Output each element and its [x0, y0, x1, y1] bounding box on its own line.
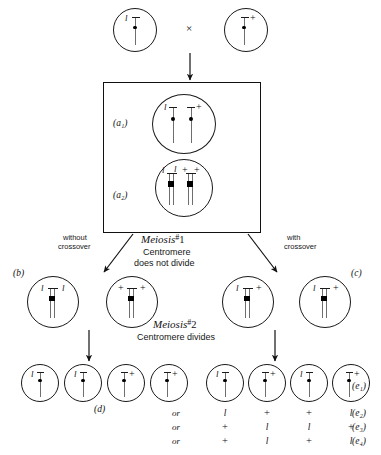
stage-label-a2: (a₂): [113, 190, 127, 200]
or-label-e4: or: [172, 436, 180, 446]
branch-label-with-crossover-line2: crossover: [284, 243, 317, 252]
gamete-e1-1: l: [206, 364, 244, 402]
stage-label-e1-text: (e₁): [352, 381, 366, 391]
gamete-d-3: +: [107, 364, 145, 402]
allele-label: +: [172, 369, 178, 378]
meiosis2-caption: Centromere divides: [137, 332, 215, 343]
meiosis1-caption-line1: Centromere: [143, 247, 191, 258]
or-label-e2: or: [172, 408, 180, 418]
allele-e4-1: +: [218, 435, 232, 446]
allele-label: +: [140, 283, 146, 292]
allele-e2-3: +: [302, 407, 316, 418]
allele-label: +: [182, 165, 188, 174]
allele-e3-3: l: [302, 422, 316, 432]
cross-symbol: ×: [186, 22, 192, 34]
allele-label: +: [250, 13, 256, 22]
allele-e3-2: l: [260, 422, 274, 432]
meiosis2-title-word: Meiosis: [153, 318, 187, 330]
parent-cell-plus: +: [224, 8, 268, 52]
meiosis1-num: 1: [179, 234, 184, 245]
stage-label-e4: (e₄): [352, 436, 366, 446]
stage-label-b: (b): [13, 268, 24, 278]
allele-label: l: [62, 284, 65, 293]
allele-label: l: [41, 284, 44, 293]
gamete-d-2: l: [64, 364, 102, 402]
allele-label: +: [118, 283, 124, 292]
meiosis1-caption-line2: does not divide: [134, 258, 195, 269]
allele-e4-3: +: [302, 435, 316, 446]
allele-e2-2: +: [260, 407, 274, 418]
cell-b2: + +: [106, 276, 158, 328]
arrow-without-crossover: [104, 234, 133, 272]
allele-label: l: [125, 14, 128, 23]
stage-label-d: (d): [94, 404, 105, 414]
allele-e2-1: l: [218, 408, 232, 418]
arrow-with-crossover: [248, 234, 277, 272]
branch-label-without-crossover-line2: crossover: [58, 243, 91, 252]
allele-label: l: [300, 370, 303, 379]
meiosis2-title: Meiosis#2: [153, 318, 196, 330]
cell-c1: l +: [222, 276, 274, 328]
meiosis1-title-word: Meiosis: [141, 233, 175, 245]
cell-c: l +: [299, 276, 351, 328]
meiosis1-title: Meiosis#1: [141, 233, 184, 245]
allele-label: +: [270, 369, 276, 378]
allele-label: l: [74, 370, 77, 379]
stage-label-c: (c): [351, 268, 362, 278]
allele-label: +: [196, 102, 202, 111]
allele-label: l: [313, 284, 316, 293]
allele-label: +: [354, 369, 360, 378]
cell-b: l l: [27, 276, 79, 328]
gamete-e1-2: +: [248, 364, 286, 402]
parent-cell-l: l: [113, 8, 157, 52]
allele-e4-2: l: [260, 436, 274, 446]
gamete-e1-3: l: [290, 364, 328, 402]
gamete-d-4: +: [150, 364, 188, 402]
stage-label-e2: (e₂): [352, 408, 366, 418]
allele-label: +: [256, 283, 262, 292]
allele-label: l: [216, 370, 219, 379]
stage-label-a1: (a₁): [113, 118, 127, 128]
allele-label: +: [194, 165, 200, 174]
allele-label: +: [333, 283, 339, 292]
cell-a2: l l + +: [155, 159, 213, 217]
allele-label: l: [174, 165, 177, 174]
cell-a1: l +: [152, 94, 216, 154]
allele-label: +: [129, 369, 135, 378]
allele-label: l: [164, 103, 167, 112]
gamete-d-1: l: [21, 364, 59, 402]
stage-label-e3: (e₃): [352, 422, 366, 432]
allele-label: l: [236, 284, 239, 293]
stage-label-e1: (e₁): [352, 381, 366, 391]
or-label-e3: or: [172, 422, 180, 432]
meiosis2-num: 2: [191, 319, 196, 330]
figure-canvas: l × + (a₁) l + (a₂): [0, 0, 381, 455]
allele-label: l: [162, 166, 165, 175]
allele-label: l: [31, 370, 34, 379]
allele-e3-1: +: [218, 421, 232, 432]
